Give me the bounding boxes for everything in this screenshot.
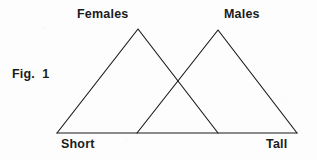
curve-label-males: Males (224, 8, 260, 21)
axis-label-short: Short (61, 138, 95, 151)
curve-females (57, 29, 218, 133)
curve-males (137, 30, 297, 133)
figure-caption: Fig. 1 (12, 68, 50, 81)
figure-container: Fig. 1 Females Males Short Tall (0, 0, 317, 160)
axis-label-tall: Tall (266, 138, 287, 151)
curve-label-females: Females (77, 8, 128, 21)
